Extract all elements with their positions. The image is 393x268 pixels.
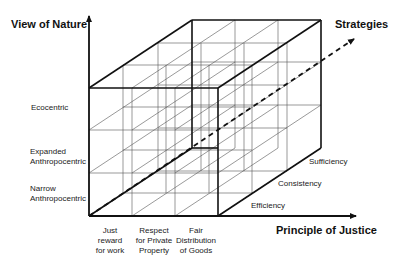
x-category-label: for work (88, 246, 132, 256)
y-axis-title: View of Nature (11, 18, 87, 30)
x-category-fair-distribution: Fair Distribution of Goods (170, 226, 222, 256)
y-category-narrow-anthropocentric: Narrow Anthropocentric (30, 184, 86, 204)
z-axis-title: Strategies (335, 18, 388, 30)
x-category-label: Just (88, 226, 132, 236)
z-category-sufficiency: Sufficiency (309, 157, 348, 167)
x-axis-title: Principle of Justice (276, 224, 377, 236)
y-category-label: Anthropocentric (30, 194, 86, 204)
x-category-label: Distribution (170, 236, 222, 246)
y-category-ecocentric: Ecocentric (31, 103, 68, 113)
x-category-label: of Goods (170, 246, 222, 256)
x-category-label: Fair (170, 226, 222, 236)
y-category-label: Anthropocentric (30, 157, 86, 167)
y-category-label: Expanded (30, 147, 86, 157)
y-category-label: Ecocentric (31, 103, 68, 113)
y-category-expanded-anthropocentric: Expanded Anthropocentric (30, 147, 86, 167)
y-category-label: Narrow (30, 184, 86, 194)
z-category-consistency: Consistency (278, 179, 322, 189)
x-category-just-reward: Just reward for work (88, 226, 132, 256)
z-category-efficiency: Efficiency (251, 201, 285, 211)
x-category-label: reward (88, 236, 132, 246)
